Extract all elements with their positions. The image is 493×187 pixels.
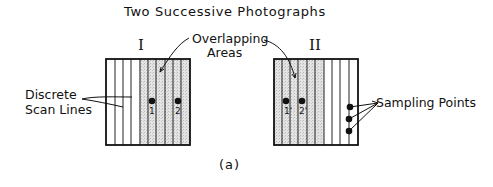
point-2-dot [175,98,182,105]
photo-1-frame [106,59,190,145]
photo-2-frame [274,59,358,145]
point-1prime-dot [283,98,290,105]
photo-2-label: II [309,36,321,54]
point-2prime-label: 2' [299,106,307,116]
point-1prime-label: 1' [284,106,292,116]
photo-1-label: I [138,36,144,54]
overlap-label-line1: Overlapping [192,32,268,46]
point-2prime-dot [299,98,306,105]
point-1-label: 1 [149,106,155,116]
point-1-dot [149,98,156,105]
scan-lines-label-line2: Scan Lines [25,103,92,117]
scan-lines-label-line1: Discrete [25,88,77,102]
figure-caption: (a) [219,158,240,172]
point-2-label: 2 [175,106,181,116]
overlap-label-line2: Areas [207,46,242,60]
sampling-points-label: Sampling Points [376,96,476,110]
